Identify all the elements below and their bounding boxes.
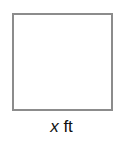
square-shape <box>12 13 113 111</box>
side-length-label: x ft <box>0 117 123 137</box>
side-unit: ft <box>63 117 72 136</box>
side-variable: x <box>50 117 59 136</box>
